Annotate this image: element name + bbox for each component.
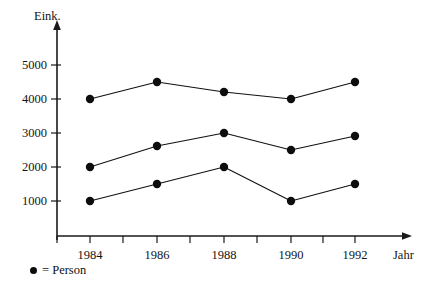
data-point: [220, 163, 228, 171]
data-point: [287, 95, 295, 103]
x-axis-ticks: [57, 236, 355, 243]
x-tick-label-1984: 1984: [62, 249, 118, 262]
y-tick-label-1000: 1000: [3, 195, 47, 208]
legend-entry-label: = Person: [42, 263, 86, 278]
y-tick-label-3000: 3000: [3, 127, 47, 140]
x-axis-title: Jahr: [393, 249, 414, 262]
series-person-3: [86, 163, 359, 205]
data-point: [86, 95, 94, 103]
filled-circle-marker-icon: [30, 267, 37, 274]
series-person-1: [86, 78, 359, 103]
data-point: [153, 142, 161, 150]
x-tick-label-1992: 1992: [327, 249, 383, 262]
y-axis-ticks: [51, 65, 61, 201]
y-tick-label-2000: 2000: [3, 161, 47, 174]
data-point: [287, 146, 295, 154]
data-point: [153, 180, 161, 188]
data-point: [287, 197, 295, 205]
chart-legend: = Person: [30, 262, 86, 278]
line-chart: Eink. 5000 4000 3000 2000 1000 1984 1986…: [0, 0, 436, 292]
y-axis-title: Eink.: [34, 10, 61, 23]
data-point: [86, 197, 94, 205]
data-point: [220, 129, 228, 137]
data-point: [351, 78, 359, 86]
x-tick-label-1988: 1988: [196, 249, 252, 262]
data-point: [351, 180, 359, 188]
arrow-right-icon: [402, 232, 412, 240]
data-point: [220, 88, 228, 96]
y-tick-label-5000: 5000: [3, 59, 47, 72]
data-point: [351, 132, 359, 140]
x-tick-label-1990: 1990: [263, 249, 319, 262]
data-point: [153, 78, 161, 86]
data-point: [86, 163, 94, 171]
x-tick-label-1986: 1986: [129, 249, 185, 262]
y-tick-label-4000: 4000: [3, 93, 47, 106]
series-3-line: [90, 167, 355, 201]
series-2-line: [90, 133, 355, 167]
